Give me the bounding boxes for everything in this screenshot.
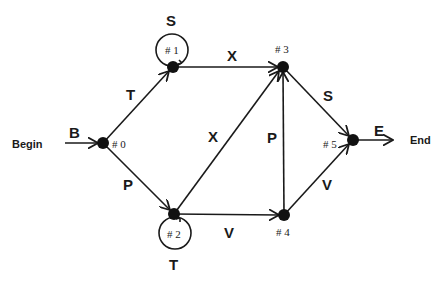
edge-label-S-loop-1: S [166, 12, 176, 29]
edge-label-T-loop-2: T [169, 256, 178, 273]
edge-3-5 [283, 67, 349, 136]
edge-label-V-4-5: V [322, 176, 332, 193]
end-label: End [410, 134, 431, 146]
edge-2-4 [174, 214, 279, 215]
edge-label-P-4-3: P [267, 129, 277, 146]
node-3 [277, 61, 289, 73]
edge-2-3 [174, 71, 279, 214]
edge-4-5 [284, 144, 349, 215]
node-3-label: # 3 [275, 43, 289, 55]
node-5-label: # 5 [323, 138, 337, 150]
edge-label-S-3-5: S [323, 87, 333, 104]
edge-label-E: E [374, 122, 384, 139]
self-loop-1-arrowhead [178, 60, 182, 64]
node-4 [278, 209, 290, 221]
edge-label-X-2-3: X [208, 128, 218, 145]
node-2 [168, 208, 180, 220]
node-4-label: # 4 [276, 226, 290, 238]
edge-label-X-1-3: X [227, 47, 237, 64]
node-2-label: # 2 [167, 228, 181, 240]
node-1-label: # 1 [165, 44, 179, 56]
edge-4-3 [283, 72, 284, 215]
edge-label-T-0-1: T [126, 86, 135, 103]
grammar-diagram: # 0 # 1 # 2 # 3 # 4 # 5 Begin End B T P … [0, 0, 444, 285]
edge-label-P-0-2: P [123, 176, 133, 193]
node-1 [167, 61, 179, 73]
node-5 [347, 134, 359, 146]
begin-label: Begin [12, 138, 43, 150]
edge-0-1 [103, 71, 169, 143]
node-0-label: # 0 [112, 138, 126, 150]
edge-0-2 [103, 143, 170, 210]
edge-label-B: B [69, 124, 80, 141]
node-0 [97, 137, 109, 149]
edge-label-V-2-4: V [224, 224, 234, 241]
